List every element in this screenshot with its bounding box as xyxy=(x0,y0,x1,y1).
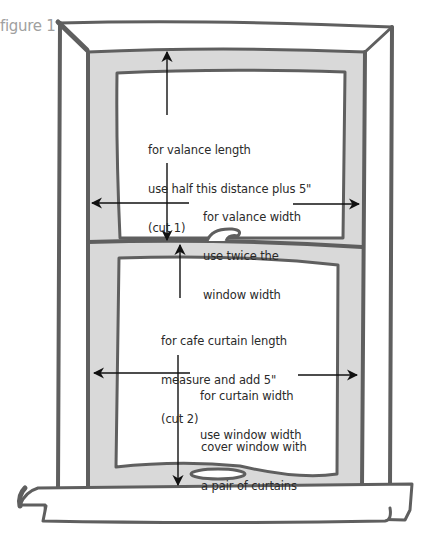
cover-window-note: cover window with a pair of curtains xyxy=(201,415,307,506)
note-line: cover window with xyxy=(201,441,307,454)
valance-width-note: for valance width use twice the window w… xyxy=(203,185,301,315)
note-line: for valance width xyxy=(203,211,301,224)
note-line: a pair of curtains xyxy=(201,480,307,493)
note-line: for valance length xyxy=(148,144,311,157)
note-line: for cafe curtain length xyxy=(161,335,287,348)
note-line: for curtain width xyxy=(200,390,301,403)
note-line: window width xyxy=(203,289,301,302)
figure-label: figure 1 xyxy=(0,17,55,35)
note-line: use twice the xyxy=(203,250,301,263)
